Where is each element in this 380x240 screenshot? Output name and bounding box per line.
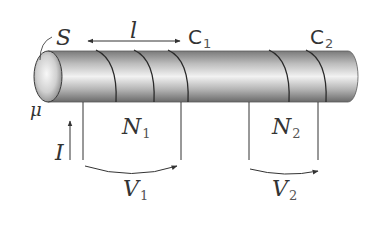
turns-1-subscript: 1 <box>142 126 150 141</box>
voltage-1-subscript: 1 <box>140 188 148 203</box>
label-coil-1: C1 <box>188 27 211 47</box>
voltage-1-arrow <box>85 166 177 174</box>
turns-2-symbol: N <box>272 114 291 139</box>
label-turns-n1: N1 <box>122 116 151 138</box>
label-area-s: S <box>56 27 71 49</box>
label-permeability-mu: μ <box>30 101 42 119</box>
voltage-1-symbol: V <box>123 176 139 201</box>
label-coil-2: C2 <box>310 27 333 47</box>
voltage-2-arrow <box>250 169 318 174</box>
coil-2-name: C <box>310 25 324 49</box>
coil-2-subscript: 2 <box>325 36 333 51</box>
turns-2-subscript: 2 <box>292 126 300 141</box>
turns-1-symbol: N <box>122 114 141 139</box>
voltage-2-subscript: 2 <box>289 188 297 203</box>
coil-1-subscript: 1 <box>203 36 211 51</box>
label-voltage-v2: V2 <box>272 178 297 200</box>
label-length-l: l <box>130 20 137 42</box>
iron-core <box>34 51 358 102</box>
label-current-i: I <box>55 142 64 164</box>
voltage-2-symbol: V <box>272 176 288 201</box>
label-turns-n2: N2 <box>272 116 301 138</box>
coil-1-name: C <box>188 25 202 49</box>
label-voltage-v1: V1 <box>123 178 148 200</box>
